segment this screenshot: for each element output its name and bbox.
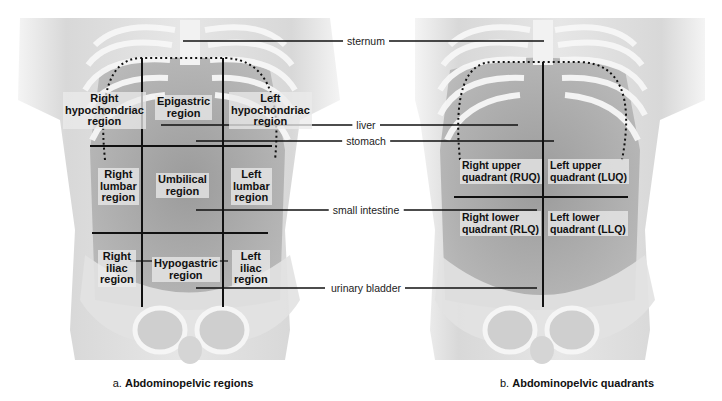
region-label-right-iliac: Right iliac region — [98, 250, 136, 287]
caption-title: Abdominopelvic quadrants — [512, 377, 654, 389]
region-label-right-lumbar: Right lumbar region — [98, 168, 139, 205]
callout-urinary-bladder: urinary bladder — [327, 282, 405, 294]
label-line: Left — [233, 169, 270, 181]
region-label-left-lumbar: Left lumbar region — [231, 168, 272, 205]
label-line: region — [234, 274, 268, 286]
callout-liver: liver — [352, 119, 379, 131]
label-line: region — [233, 192, 270, 204]
label-line: Right — [100, 251, 134, 263]
label-line: Right lower — [462, 212, 539, 224]
callout-small-intestine: small intestine — [329, 204, 404, 216]
label-line: Right upper — [462, 160, 540, 172]
label-line: region — [157, 108, 210, 120]
quadrant-label-llq: Left lower quadrant (LLQ) — [548, 211, 628, 236]
label-line: Right — [65, 93, 144, 105]
label-line: Left lower — [550, 212, 626, 224]
label-line: Left — [234, 251, 268, 263]
caption-panel-b: b. Abdominopelvic quadrants — [500, 377, 654, 389]
torso-b — [415, 18, 705, 364]
label-line: Umbilical — [158, 174, 207, 186]
region-label-umbilical: Umbilical region — [156, 173, 209, 198]
label-line: region — [65, 116, 144, 128]
label-line: Left — [231, 93, 310, 105]
label-line: quadrant (RLQ) — [462, 224, 539, 236]
callout-stomach: stomach — [342, 135, 390, 147]
label-line: region — [100, 274, 134, 286]
quadrant-label-luq: Left upper quadrant (LUQ) — [548, 159, 629, 184]
label-line: region — [158, 186, 207, 198]
label-line: Left upper — [550, 160, 627, 172]
label-line: quadrant (LUQ) — [550, 172, 627, 184]
label-line: Right — [100, 169, 137, 181]
quadrant-label-ruq: Right upper quadrant (RUQ) — [460, 159, 542, 184]
label-line: quadrant (LLQ) — [550, 224, 626, 236]
label-line: region — [154, 270, 218, 282]
label-line: Epigastric — [157, 96, 210, 108]
region-label-epigastric: Epigastric region — [155, 95, 212, 120]
region-label-hypogastric: Hypogastric region — [152, 257, 220, 282]
caption-prefix: a. — [113, 377, 122, 389]
label-line: region — [100, 192, 137, 204]
label-line: quadrant (RUQ) — [462, 172, 540, 184]
region-label-left-hypochondriac: Left hypochondriac region — [229, 92, 312, 129]
caption-panel-a: a. Abdominopelvic regions — [113, 377, 254, 389]
label-line: region — [231, 116, 310, 128]
quadrant-label-rlq: Right lower quadrant (RLQ) — [460, 211, 541, 236]
region-label-left-iliac: Left iliac region — [232, 250, 270, 287]
callout-sternum: sternum — [343, 35, 389, 47]
region-label-right-hypochondriac: Right hypochondriac region — [63, 92, 146, 129]
label-line: Hypogastric — [154, 258, 218, 270]
caption-title: Abdominopelvic regions — [125, 377, 253, 389]
caption-prefix: b. — [500, 377, 509, 389]
